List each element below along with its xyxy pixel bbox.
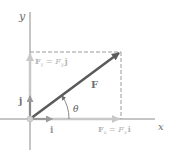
theta-arc [62, 96, 69, 119]
j-unit-label: j [18, 96, 22, 106]
f-vector-label: F [91, 79, 98, 90]
vector-diagram: y x F θ j i Fy = Fyj Fx = Fxi [0, 0, 172, 153]
origin-point [27, 116, 33, 122]
fy-component-label: Fy = Fyj [35, 56, 68, 68]
fx-component-label: Fx = Fxi [98, 124, 131, 135]
x-axis-label: x [158, 121, 164, 132]
i-unit-label: i [50, 125, 54, 135]
y-axis-label: y [18, 10, 26, 23]
theta-label: θ [73, 104, 79, 114]
